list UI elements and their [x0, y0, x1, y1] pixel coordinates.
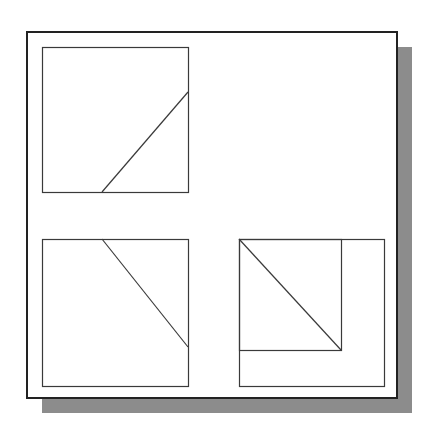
diagram-canvas	[0, 0, 433, 434]
